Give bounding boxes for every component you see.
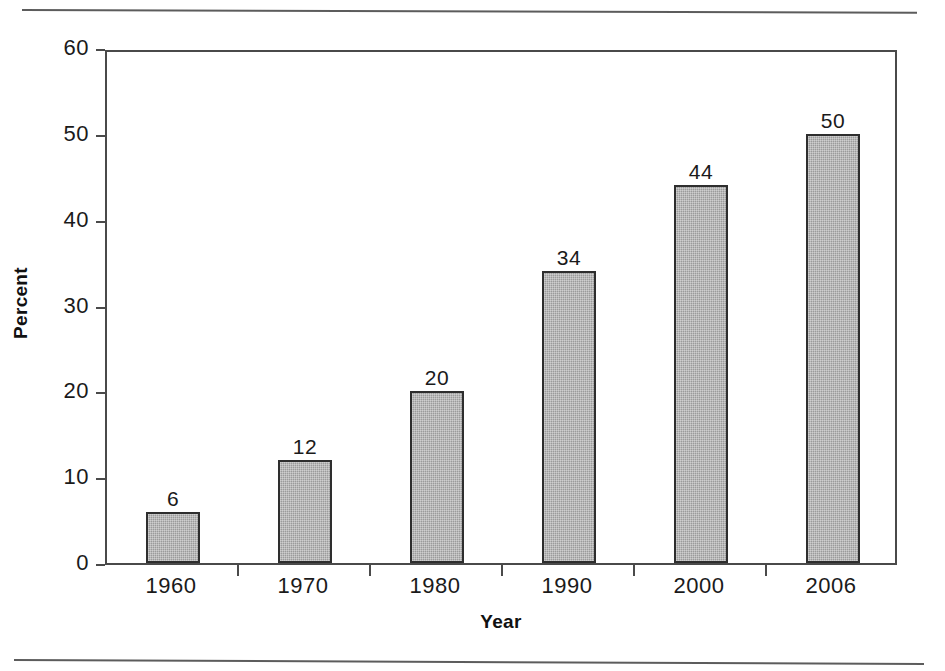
bar-value-label-1960: 6 [107,488,239,509]
y-tick-mark [96,307,105,309]
bar-slot [635,52,767,563]
bar-slot [371,52,503,563]
bar-1980 [410,391,464,563]
bar-chart-figure: 61220344450 0102030405060 19601970198019… [0,0,945,671]
y-tick-mark [96,49,105,51]
x-axis-label-2000: 2000 [633,575,765,597]
y-tick-mark [96,478,105,480]
x-axis-label-2006: 2006 [765,575,897,597]
x-axis-label-1970: 1970 [237,575,369,597]
x-tick-mark [765,565,767,576]
bar-value-label-1980: 20 [371,367,503,388]
y-tick-mark [96,135,105,137]
y-tick-label: 50 [64,123,89,145]
x-axis-label-1990: 1990 [501,575,633,597]
y-tick-mark [96,392,105,394]
bar-1970 [278,460,332,563]
x-axis-title: Year [105,611,897,633]
bar-1990 [542,271,596,563]
bar-value-label-1970: 12 [239,436,371,457]
plot-area: 61220344450 [105,50,897,565]
bar-slot [239,52,371,563]
bar-value-label-2000: 44 [635,161,767,182]
y-tick-label: 0 [76,552,89,574]
y-axis-title: Percent [10,253,32,353]
y-tick-label: 10 [64,466,89,488]
y-tick-label: 30 [64,295,89,317]
x-tick-mark [237,565,239,576]
x-tick-mark [633,565,635,576]
y-tick-mark [96,221,105,223]
bar-value-label-2006: 50 [767,110,899,131]
y-tick-mark [96,564,105,566]
bar-value-label-1990: 34 [503,247,635,268]
bar-1960 [146,512,200,564]
y-tick-label: 20 [64,380,89,402]
bar-slot [503,52,635,563]
bar-2000 [674,185,728,563]
bar-2006 [806,134,860,563]
x-axis-label-1980: 1980 [369,575,501,597]
y-tick-label: 60 [64,37,89,59]
x-tick-mark [501,565,503,576]
x-axis-label-1960: 1960 [105,575,237,597]
y-tick-label: 40 [64,209,89,231]
x-tick-mark [369,565,371,576]
